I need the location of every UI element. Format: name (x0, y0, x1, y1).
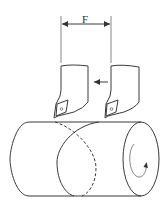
cutting-tool-left (54, 65, 88, 118)
cylinder-left-end (10, 122, 29, 196)
rotation-arrow-icon (130, 144, 146, 177)
rotation-arrowhead (144, 162, 149, 168)
helix-thread-path (55, 122, 99, 196)
insert-screw-icon (110, 108, 113, 111)
insert-screw-icon (60, 108, 63, 111)
cylinder-right-end-face (123, 122, 159, 196)
workpiece-cylinder (10, 122, 159, 196)
cutting-tool-right (105, 65, 139, 118)
thread-turning-diagram (0, 0, 168, 209)
helix-hidden-curve (55, 122, 96, 196)
dimension-label-f: F (82, 14, 88, 25)
